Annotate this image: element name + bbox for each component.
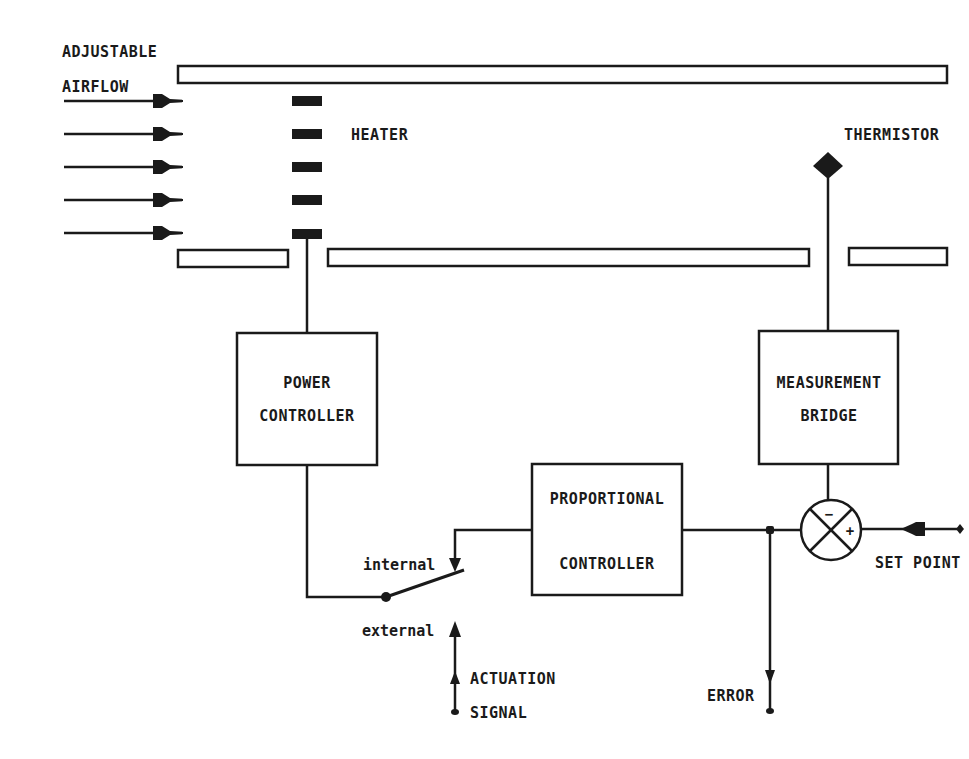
power-controller-block: POWER CONTROLLER bbox=[237, 333, 377, 465]
error-tap-junction-icon bbox=[766, 526, 774, 534]
thermistor-label: THERMISTOR bbox=[844, 126, 940, 144]
control-loop-diagram: ADJUSTABLE AIRFLOW bbox=[0, 0, 969, 759]
summing-minus-sign: − bbox=[825, 506, 833, 522]
switch-external-label: external bbox=[362, 622, 434, 640]
heater-element-icon bbox=[292, 195, 322, 205]
measurement-bridge-label-line1: MEASUREMENT bbox=[777, 374, 882, 392]
actuation-terminal-icon bbox=[451, 709, 459, 715]
measurement-bridge-box bbox=[759, 331, 898, 464]
heater-element-icon bbox=[292, 229, 322, 239]
switch-internal-label: internal bbox=[363, 556, 435, 574]
actuation-signal-label-line2: SIGNAL bbox=[470, 704, 527, 722]
proportional-controller-label-line1: PROPORTIONAL bbox=[550, 490, 664, 508]
power-controller-box bbox=[237, 333, 377, 465]
heater-element-icon bbox=[292, 96, 322, 106]
error-label: ERROR bbox=[707, 687, 755, 705]
summing-plus-sign: + bbox=[846, 523, 854, 539]
proportional-controller-label-line2: CONTROLLER bbox=[559, 555, 655, 573]
summing-junction: − + bbox=[801, 500, 861, 560]
measurement-bridge-block: MEASUREMENT BRIDGE bbox=[759, 331, 898, 464]
airflow-label-line2: AIRFLOW bbox=[62, 78, 129, 96]
proportional-controller-box bbox=[532, 464, 682, 595]
heater-element-icon bbox=[292, 162, 322, 172]
measurement-bridge-label-line2: BRIDGE bbox=[800, 407, 857, 425]
error-terminal-icon bbox=[766, 708, 774, 714]
power-controller-label-line2: CONTROLLER bbox=[259, 407, 355, 425]
power-controller-label-line1: POWER bbox=[283, 374, 331, 392]
proportional-controller-block: PROPORTIONAL CONTROLLER bbox=[532, 464, 682, 595]
heater-element-icon bbox=[292, 129, 322, 139]
actuation-signal-label-line1: ACTUATION bbox=[470, 670, 556, 688]
set-point-label: SET POINT bbox=[875, 554, 961, 572]
heater-label: HEATER bbox=[351, 126, 409, 144]
airflow-label-line1: ADJUSTABLE bbox=[62, 43, 157, 61]
